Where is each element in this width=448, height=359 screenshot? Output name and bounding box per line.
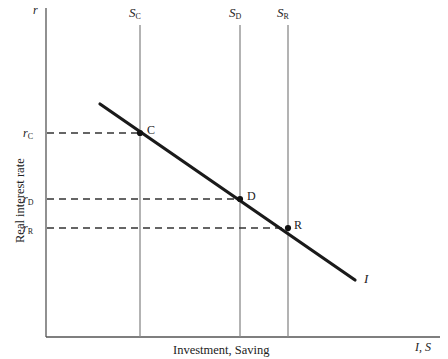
saving-line-d-base: S <box>229 5 236 20</box>
equilibrium-point-c <box>137 130 143 136</box>
saving-line-c-sub: C <box>136 12 141 21</box>
rate-tick-rc-base: r <box>23 126 28 140</box>
rate-tick-rc-sub: C <box>28 132 33 141</box>
equilibrium-point-r <box>285 225 291 231</box>
equilibrium-point-d <box>237 196 243 202</box>
plot-canvas <box>0 0 448 359</box>
point-label-c: C <box>147 124 155 136</box>
saving-line-d-sub: D <box>236 12 242 21</box>
rate-tick-rc: rC <box>23 127 33 139</box>
rate-tick-rd-base: r <box>23 192 28 206</box>
point-label-d: D <box>247 190 256 202</box>
x-axis-variable-label: I, S <box>415 341 431 353</box>
rate-tick-rr-base: r <box>23 221 28 235</box>
y-axis-variable-label: r <box>33 4 38 16</box>
saving-line-r-base: S <box>277 5 284 20</box>
saving-line-c-base: S <box>129 5 136 20</box>
rate-tick-rd: rD <box>23 193 33 205</box>
investment-demand-curve <box>100 104 355 280</box>
saving-line-d-label: SD <box>229 6 241 19</box>
saving-line-r-sub: R <box>284 12 289 21</box>
rate-tick-rr-sub: R <box>28 227 33 236</box>
rate-tick-rd-sub: D <box>28 198 34 207</box>
rate-tick-rr: rR <box>23 222 33 234</box>
point-label-r: R <box>294 219 302 231</box>
saving-line-r-label: SR <box>277 6 289 19</box>
loanable-funds-figure: r Real interest rate rC rD rR SC SD SR C… <box>0 0 448 359</box>
x-axis-title: Investment, Saving <box>173 344 270 357</box>
investment-curve-label: I <box>364 272 368 285</box>
saving-line-c-label: SC <box>129 6 141 19</box>
